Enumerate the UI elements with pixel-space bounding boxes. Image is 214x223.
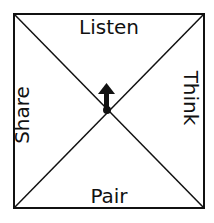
section-label-left: Share <box>10 86 34 144</box>
section-label-bottom: Pair <box>90 184 128 208</box>
section-label-right: Think <box>179 70 203 126</box>
section-label-top: Listen <box>79 15 139 39</box>
listen-think-pair-share-diagram: Listen Pair Share Think <box>0 0 214 223</box>
arrow-up-icon <box>98 83 115 114</box>
